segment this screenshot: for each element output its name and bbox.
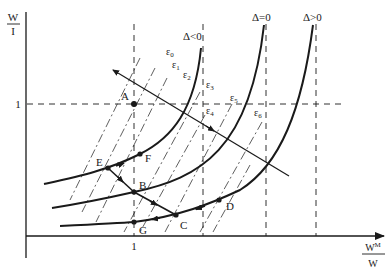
axes	[26, 12, 384, 258]
epsilon-labels: ε0 ε1 ε2 ε3 ε4 ε5 ε6	[166, 46, 262, 120]
y-tick-1: 1	[15, 98, 21, 110]
diagram-canvas: W I WM W 1 1 ε0 ε1 ε2 ε3 ε4 ε5 ε6	[0, 0, 390, 277]
x-label-denominator: W	[368, 258, 378, 269]
label-E: E	[96, 156, 103, 168]
epsilon-label-4: ε4	[206, 105, 214, 118]
x-axis-label: WM W	[362, 241, 385, 269]
epsilon-line-6	[200, 122, 262, 232]
point-B	[131, 189, 136, 194]
path-B-C-arrow	[150, 201, 157, 205]
x-tick-1: 1	[131, 240, 137, 252]
x-label-numerator: WM	[365, 241, 381, 253]
path-E-B-arrow	[118, 177, 123, 182]
epsilon-label-1: ε1	[172, 59, 180, 72]
point-G	[131, 219, 136, 224]
curve-delta-positive	[60, 25, 313, 226]
point-F	[137, 151, 142, 156]
label-C: C	[180, 219, 187, 231]
epsilon-label-6: ε6	[254, 107, 262, 120]
epsilon-label-3: ε3	[206, 79, 214, 92]
point-E	[105, 165, 110, 170]
delta-zero-label: Δ=0	[252, 11, 271, 23]
epsilon-label-0: ε0	[166, 46, 174, 59]
epsilon-label-5: ε5	[230, 92, 238, 105]
label-B: B	[139, 179, 146, 191]
label-A: A	[121, 90, 129, 102]
point-D	[216, 197, 221, 202]
point-A	[131, 101, 137, 107]
delta-curves	[44, 25, 313, 226]
y-label-denominator: I	[11, 25, 15, 37]
delta-negative-label: Δ<0	[183, 30, 202, 42]
y-label-numerator: W	[8, 11, 19, 23]
label-D: D	[226, 200, 234, 212]
adjustment-line-midarrow	[206, 126, 214, 131]
label-F: F	[145, 152, 151, 164]
point-C	[173, 212, 178, 217]
epsilon-line-2	[96, 78, 167, 222]
y-axis-label: W I	[7, 11, 20, 37]
delta-positive-label: Δ>0	[303, 11, 322, 23]
epsilon-label-2: ε2	[183, 69, 191, 82]
adjustment-line	[113, 70, 289, 176]
curve-delta-zero	[52, 25, 264, 208]
label-G: G	[139, 224, 147, 236]
